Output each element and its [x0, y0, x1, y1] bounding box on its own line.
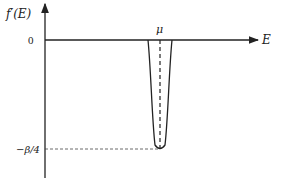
mu-label: μ: [156, 23, 163, 36]
zero-tick-label: 0: [28, 34, 34, 46]
min-tick-label: −β/4: [16, 144, 40, 155]
fermi-derivative-diagram: f′(E) 0 −β/4 μ E: [0, 0, 281, 182]
y-axis-label: f′(E): [5, 7, 32, 21]
x-axis-label: E: [261, 33, 271, 47]
